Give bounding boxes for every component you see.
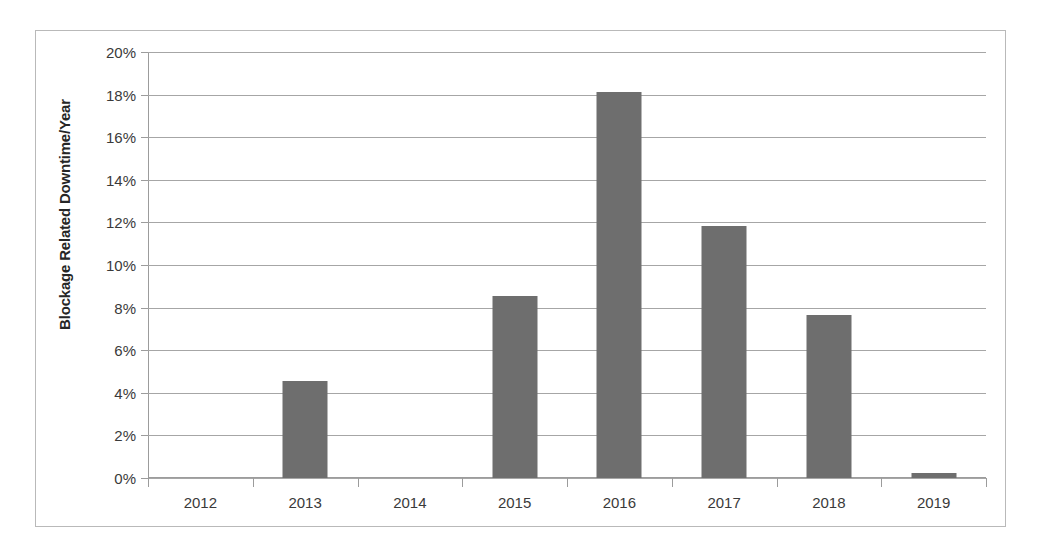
y-tick-label: 4% <box>114 384 136 401</box>
x-tick-mark <box>462 478 463 487</box>
bar-2018[interactable] <box>806 315 851 478</box>
x-tick-mark <box>148 478 149 487</box>
x-tick-mark <box>986 478 987 487</box>
bar-slot <box>358 52 463 478</box>
x-tick-label-2013: 2013 <box>288 494 321 511</box>
plot-area: 0%2%4%6%8%10%12%14%16%18%20% 20122013201… <box>148 52 986 478</box>
x-tick-label-2018: 2018 <box>812 494 845 511</box>
bar-2013[interactable] <box>283 381 328 478</box>
x-tick-mark <box>358 478 359 487</box>
bar-2019[interactable] <box>911 473 956 478</box>
bar-slot <box>777 52 882 478</box>
y-tick-mark <box>141 435 148 436</box>
y-tick-label: 20% <box>106 44 136 61</box>
bar-slot <box>672 52 777 478</box>
bar-slot <box>462 52 567 478</box>
y-tick-mark <box>141 180 148 181</box>
y-tick-mark <box>141 52 148 53</box>
y-tick-label: 18% <box>106 86 136 103</box>
x-tick-mark <box>881 478 882 487</box>
x-tick-mark <box>253 478 254 487</box>
x-tick-mark <box>567 478 568 487</box>
y-tick-mark <box>141 222 148 223</box>
y-tick-label: 2% <box>114 427 136 444</box>
bar-slot <box>881 52 986 478</box>
x-tick-label-2012: 2012 <box>184 494 217 511</box>
y-tick-label: 16% <box>106 129 136 146</box>
y-tick-mark <box>141 95 148 96</box>
y-axis-title: Blockage Related Downtime/Year <box>56 35 73 395</box>
bar-2016[interactable] <box>597 92 642 478</box>
x-tick-label-2014: 2014 <box>393 494 426 511</box>
y-tick-mark <box>141 308 148 309</box>
chart-frame: Blockage Related Downtime/Year 0%2%4%6%8… <box>35 30 1006 527</box>
y-tick-label: 10% <box>106 257 136 274</box>
bar-slot <box>253 52 358 478</box>
y-tick-mark <box>141 393 148 394</box>
bar-slot <box>567 52 672 478</box>
bar-2015[interactable] <box>492 296 537 478</box>
x-tick-mark <box>672 478 673 487</box>
y-tick-label: 6% <box>114 342 136 359</box>
y-tick-mark <box>141 265 148 266</box>
x-tick-label-2017: 2017 <box>707 494 740 511</box>
y-tick-label: 0% <box>114 470 136 487</box>
y-tick-mark <box>141 137 148 138</box>
y-tick-label: 12% <box>106 214 136 231</box>
x-tick-label-2019: 2019 <box>917 494 950 511</box>
bar-slot <box>148 52 253 478</box>
y-tick-mark <box>141 478 148 479</box>
x-tick-mark <box>777 478 778 487</box>
y-tick-label: 8% <box>114 299 136 316</box>
bar-2017[interactable] <box>702 226 747 478</box>
y-tick-mark <box>141 350 148 351</box>
y-tick-label: 14% <box>106 171 136 188</box>
x-tick-label-2015: 2015 <box>498 494 531 511</box>
x-tick-label-2016: 2016 <box>603 494 636 511</box>
